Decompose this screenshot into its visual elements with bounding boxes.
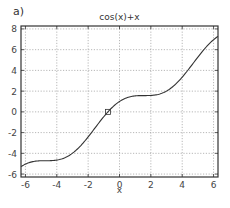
y-tick-label: -2 <box>8 128 17 138</box>
y-tick-label: 8 <box>11 24 17 34</box>
y-tick-label: 2 <box>11 87 17 97</box>
x-tick-label: 4 <box>179 180 185 190</box>
y-tick-label: 6 <box>11 45 17 55</box>
y-tick-label: -6 <box>8 170 17 180</box>
line-chart: -6-4-20246-6-4-202468 <box>0 0 230 208</box>
y-tick-label: 0 <box>11 107 17 117</box>
x-tick-label: -6 <box>21 180 30 190</box>
x-tick-label: -4 <box>52 180 61 190</box>
x-tick-label: 0 <box>117 180 123 190</box>
x-tick-label: -2 <box>84 180 93 190</box>
y-tick-label: -4 <box>8 149 17 159</box>
y-tick-label: 4 <box>11 66 17 76</box>
x-tick-label: 2 <box>148 180 154 190</box>
x-tick-label: 6 <box>211 180 217 190</box>
